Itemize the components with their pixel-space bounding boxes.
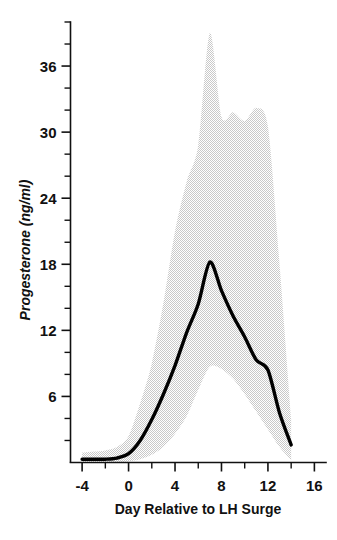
y-tick-label: 18 — [40, 256, 57, 273]
range-band — [82, 33, 291, 463]
chart-figure: 61218243036 -40481216 Day Relative to LH… — [0, 0, 337, 540]
x-axis-tick-labels: -40481216 — [75, 477, 322, 494]
y-tick-label: 30 — [40, 124, 57, 141]
y-axis-title: Progesterone (ng/ml) — [17, 179, 33, 320]
x-tick-label: 12 — [260, 477, 277, 494]
y-tick-label: 36 — [40, 58, 57, 75]
x-axis-ticks — [82, 463, 314, 472]
y-tick-label: 12 — [40, 322, 57, 339]
y-tick-label: 6 — [48, 388, 56, 405]
x-axis-title: Day Relative to LH Surge — [115, 501, 282, 517]
x-tick-label: 4 — [171, 477, 180, 494]
x-tick-label: 8 — [217, 477, 225, 494]
y-axis-ticks — [62, 22, 71, 440]
x-tick-label: 0 — [124, 477, 132, 494]
plot-area — [82, 33, 291, 463]
x-tick-label: 16 — [306, 477, 323, 494]
x-tick-label: -4 — [75, 477, 89, 494]
y-axis-tick-labels: 61218243036 — [40, 58, 57, 405]
y-tick-label: 24 — [40, 190, 57, 207]
progesterone-chart-svg: 61218243036 -40481216 Day Relative to LH… — [0, 0, 337, 540]
